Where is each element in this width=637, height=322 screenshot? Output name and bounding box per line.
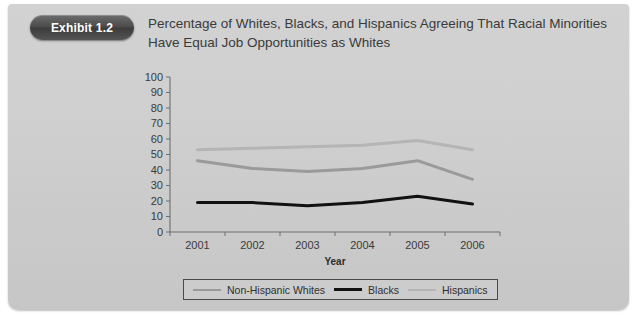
legend-item-blacks: Blacks — [334, 284, 399, 296]
y-axis-tick-label: 20 — [151, 195, 163, 207]
page-title: Percentage of Whites, Blacks, and Hispan… — [148, 14, 618, 52]
x-axis-tick-label: 2002 — [240, 239, 264, 251]
chart-legend: Non-Hispanic Whites Blacks Hispanics — [183, 279, 498, 300]
y-axis-tick-label: 60 — [151, 133, 163, 145]
y-axis-ticks — [166, 77, 170, 232]
legend-label-hispanics: Hispanics — [442, 284, 488, 296]
x-axis-tick-label: 2005 — [405, 239, 429, 251]
x-axis-tick-label: 2006 — [460, 239, 484, 251]
y-axis-tick-label: 40 — [151, 164, 163, 176]
y-axis-tick-label: 70 — [151, 117, 163, 129]
series-line-hispanics — [198, 141, 473, 150]
chart-svg: 0102030405060708090100 20012002200320042… — [128, 66, 508, 266]
x-axis-tick-label: 2003 — [295, 239, 319, 251]
legend-swatch-non-hispanic-whites — [193, 289, 221, 291]
legend-label-non-hispanic-whites: Non-Hispanic Whites — [227, 284, 325, 296]
series-line-blacks — [198, 196, 473, 205]
legend-item-hispanics: Hispanics — [408, 284, 488, 296]
exhibit-badge-label: Exhibit 1.2 — [51, 21, 113, 35]
y-axis-tick-label: 30 — [151, 179, 163, 191]
y-axis-tick-label: 0 — [157, 226, 163, 238]
title-line-1: Percentage of Whites, Blacks, and Hispan… — [148, 14, 618, 33]
legend-swatch-blacks — [334, 288, 362, 291]
series-layer — [198, 141, 473, 206]
x-axis-tick-label: 2001 — [185, 239, 209, 251]
y-axis-tick-label: 50 — [151, 148, 163, 160]
y-axis-tick-label: 90 — [151, 86, 163, 98]
series-line-non-hispanic-whites — [198, 161, 473, 180]
x-axis-labels: 200120022003200420052006 — [185, 239, 484, 251]
legend-item-non-hispanic-whites: Non-Hispanic Whites — [193, 284, 325, 296]
y-axis-tick-label: 10 — [151, 210, 163, 222]
y-axis-tick-label: 80 — [151, 102, 163, 114]
exhibit-panel: Exhibit 1.2 Percentage of Whites, Blacks… — [8, 4, 629, 310]
line-chart: 0102030405060708090100 20012002200320042… — [128, 66, 508, 266]
x-axis-ticks — [170, 232, 500, 236]
y-axis-tick-label: 100 — [145, 71, 163, 83]
title-line-2: Have Equal Job Opportunities as Whites — [148, 33, 618, 52]
x-axis-tick-label: 2004 — [350, 239, 374, 251]
legend-label-blacks: Blacks — [368, 284, 399, 296]
x-axis-title: Year — [324, 256, 345, 267]
legend-swatch-hispanics — [408, 289, 436, 291]
exhibit-badge: Exhibit 1.2 — [30, 15, 134, 40]
y-axis-labels: 0102030405060708090100 — [145, 71, 163, 238]
